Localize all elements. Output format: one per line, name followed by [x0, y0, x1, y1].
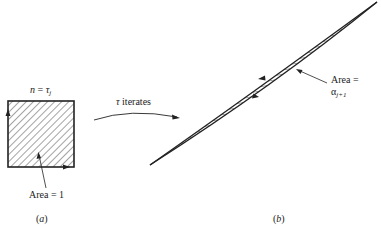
tau-iterates-label: τ iterates [116, 96, 151, 107]
caption-a: (a) [36, 213, 48, 224]
area-pointer-arrow-b [296, 69, 303, 74]
area-label-b-line1: Area = [331, 74, 359, 85]
square-top-label: n = τj [30, 84, 51, 95]
unit-square [8, 101, 74, 167]
lens-arrow-upper-icon [258, 76, 266, 81]
area-label-b-line2: αj+1 [331, 86, 346, 97]
area-pointer-line-b [300, 71, 327, 83]
area-label-a: Area = 1 [29, 189, 64, 200]
tau-iterates-arrow [94, 113, 177, 120]
caption-b: (b) [273, 213, 285, 224]
tau-iterates-arrowhead-icon [172, 115, 180, 120]
